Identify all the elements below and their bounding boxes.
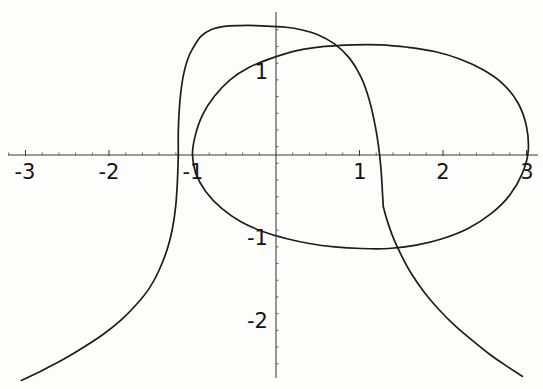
curve-group: [21, 25, 528, 380]
y-tick-label: -2: [247, 311, 268, 332]
x-tick-label: 1: [353, 162, 366, 183]
x-tick-label: -2: [99, 162, 120, 183]
plot-figure: -3-2-11231-1-2: [0, 0, 543, 389]
curve-cubic-branch-lower-left: [21, 155, 178, 380]
x-tick-label: -3: [15, 162, 36, 183]
x-tick-label: 2: [436, 162, 449, 183]
y-axis-ticks: [276, 30, 279, 364]
y-tick-label: -1: [247, 228, 268, 249]
curve-cubic-branch-lower-right: [383, 207, 522, 376]
x-tick-label: -1: [183, 162, 204, 183]
plot-canvas: [0, 0, 543, 389]
y-tick-label: 1: [255, 62, 268, 83]
axes-group: [8, 12, 538, 378]
x-tick-label: 3: [520, 162, 533, 183]
